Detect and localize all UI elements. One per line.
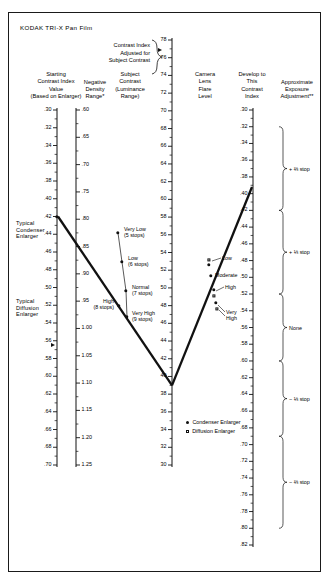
hdr-line: Adjustment** bbox=[281, 93, 314, 100]
develop-to-contrast-index-tick-label: .54 bbox=[240, 308, 248, 313]
typical-diffusion-enlarger-label: Typical Diffusion Enlarger bbox=[16, 298, 39, 318]
hdr-line: (Luminance bbox=[115, 86, 145, 93]
develop-to-contrast-index-tick-label: .46 bbox=[240, 241, 248, 246]
starting-contrast-index-tick-label: .68 bbox=[44, 445, 52, 450]
hdr-line: Value bbox=[31, 86, 82, 93]
negative-density-range-tick-label: .75 bbox=[82, 189, 90, 194]
negative-density-range-tick-label: 1.25 bbox=[82, 462, 93, 467]
starting-contrast-index-tick-label: .58 bbox=[44, 356, 52, 361]
hdr-line: Index bbox=[238, 93, 265, 100]
header-exposure-adjustment: Approximate Exposure Adjustment** bbox=[281, 79, 314, 101]
hdr-line: Range* bbox=[84, 93, 106, 100]
exposure-adjustment-label: − ⅓ stop bbox=[289, 396, 310, 402]
legend-label: Condenser Enlarger bbox=[192, 418, 240, 427]
side-label-line: Typical bbox=[16, 298, 39, 305]
legend: Condenser Enlarger Diffusion Enlarger bbox=[186, 418, 241, 436]
center-callout-line3: Subject Contrast bbox=[109, 57, 150, 64]
negative-density-range-tick-label: .65 bbox=[82, 135, 90, 140]
negative-density-range-tick-label: .70 bbox=[82, 162, 90, 167]
negative-density-range-tick-label: 1.00 bbox=[82, 326, 93, 331]
develop-to-contrast-index-tick-label: .50 bbox=[240, 275, 248, 280]
hdr-line: Negative bbox=[84, 79, 106, 86]
hdr-line: Lens bbox=[195, 78, 215, 85]
subject-contrast-label: Low(6 stops) bbox=[128, 255, 149, 267]
subject-contrast-label: Normal(7 stops) bbox=[132, 284, 153, 296]
starting-contrast-index-tick-label: .62 bbox=[44, 391, 52, 396]
legend-label: Diffusion Enlarger bbox=[192, 427, 235, 436]
nomograph-page: KODAK TRI-X Pan Film Contrast Index Adju… bbox=[0, 0, 330, 584]
negative-density-range-tick-label: 1.15 bbox=[82, 408, 93, 413]
contrast-index-adjusted-tick-label: 64 bbox=[161, 161, 167, 166]
contrast-index-adjusted-tick-label: 42 bbox=[161, 356, 167, 361]
flare-point-diffusion bbox=[212, 294, 215, 297]
starting-contrast-index-tick-label: .44 bbox=[44, 232, 52, 237]
exposure-adjustment-label: + ⅓ stop bbox=[289, 249, 310, 255]
develop-to-contrast-index-tick-label: .30 bbox=[240, 107, 248, 112]
page-title: KODAK TRI-X Pan Film bbox=[20, 24, 93, 31]
develop-to-contrast-index-tick-label: .48 bbox=[240, 258, 248, 263]
subject-contrast-label: Very Low(5 stops) bbox=[124, 226, 146, 238]
starting-contrast-index-tick-label: .38 bbox=[44, 178, 52, 183]
typical-condenser-enlarger-label: Typical Condenser Enlarger bbox=[16, 220, 45, 240]
starting-contrast-index-tick-label: .40 bbox=[44, 196, 52, 201]
contrast-index-adjusted-tick-label: 50 bbox=[161, 285, 167, 290]
contrast-index-adjusted-tick-label: 34 bbox=[161, 427, 167, 432]
side-label-line: Enlarger bbox=[16, 311, 39, 318]
header-starting-ci: Starting Contrast Index Value (Based on … bbox=[31, 71, 82, 101]
develop-to-contrast-index-tick-label: .32 bbox=[240, 124, 248, 129]
center-callout-arrow bbox=[158, 48, 162, 52]
hdr-line: This bbox=[238, 78, 265, 85]
develop-to-contrast-index-tick-label: .80 bbox=[240, 526, 248, 531]
starting-contrast-index-tick-label: .66 bbox=[44, 427, 52, 432]
subject-contrast-label-stops: (9 stops) bbox=[132, 316, 155, 322]
develop-to-contrast-index-tick-label: .60 bbox=[240, 358, 248, 363]
contrast-index-adjusted-tick-label: 76 bbox=[161, 55, 167, 60]
starting-contrast-index-tick-label: .60 bbox=[44, 374, 52, 379]
flare-label-moderate: Moderate bbox=[215, 272, 237, 278]
develop-to-contrast-index-tick-label: .42 bbox=[240, 208, 248, 213]
contrast-index-adjusted-tick-label: 70 bbox=[161, 108, 167, 113]
starting-contrast-index-tick-label: .52 bbox=[44, 303, 52, 308]
develop-to-contrast-index-tick-label: .68 bbox=[240, 425, 248, 430]
contrast-index-adjusted-tick-label: 72 bbox=[161, 90, 167, 95]
side-label-line: Typical bbox=[16, 220, 45, 227]
hdr-line: Flare bbox=[195, 86, 215, 93]
starting-contrast-index-tick-label: .32 bbox=[44, 125, 52, 130]
hdr-line: Camera bbox=[195, 71, 215, 78]
hdr-line: Range) bbox=[115, 93, 145, 100]
hdr-line: Approximate bbox=[281, 79, 314, 86]
develop-to-contrast-index-tick-label: .40 bbox=[240, 191, 248, 196]
hdr-line: (Based on Enlarger) bbox=[31, 93, 82, 100]
starting-contrast-index-tick-label: .50 bbox=[44, 285, 52, 290]
contrast-index-adjusted-tick-label: 40 bbox=[161, 374, 167, 379]
open-square-icon bbox=[186, 430, 189, 433]
subject-contrast-label-stops: (8 stops) bbox=[93, 304, 114, 310]
contrast-index-adjusted-tick-label: 66 bbox=[161, 144, 167, 149]
starting-contrast-index-tick-label: .34 bbox=[44, 143, 52, 148]
legend-item: Diffusion Enlarger bbox=[186, 427, 241, 436]
develop-to-contrast-index-tick-label: .36 bbox=[240, 157, 248, 162]
contrast-index-adjusted-tick-label: 62 bbox=[161, 179, 167, 184]
starting-contrast-index-tick-label: .64 bbox=[44, 409, 52, 414]
legend-item: Condenser Enlarger bbox=[186, 418, 241, 427]
negative-density-range-tick-label: 1.10 bbox=[82, 380, 93, 385]
filled-circle-icon bbox=[186, 421, 189, 424]
contrast-index-adjusted-tick-label: 78 bbox=[161, 37, 167, 42]
header-subject-contrast: Subject Contrast (Luminance Range) bbox=[115, 71, 145, 101]
hdr-line: Starting bbox=[31, 71, 82, 78]
starting-contrast-index-tick-label: .70 bbox=[44, 462, 52, 467]
develop-to-contrast-index-tick-label: .76 bbox=[240, 492, 248, 497]
contrast-index-adjusted-tick-label: 56 bbox=[161, 232, 167, 237]
contrast-index-adjusted-tick-label: 44 bbox=[161, 338, 167, 343]
header-flare-level: Camera Lens Flare Level bbox=[195, 71, 215, 101]
contrast-index-adjusted-tick-label: 38 bbox=[161, 391, 167, 396]
hdr-line: Contrast Index bbox=[31, 78, 82, 85]
header-negative-density: Negative Density Range* bbox=[84, 79, 106, 101]
starting-contrast-index-tick-label: .46 bbox=[44, 249, 52, 254]
negative-density-range-tick-label: .85 bbox=[82, 244, 90, 249]
flare-label-low: Low bbox=[222, 255, 232, 261]
negative-density-range-tick-label: .95 bbox=[82, 298, 90, 303]
contrast-index-adjusted-tick-label: 58 bbox=[161, 214, 167, 219]
contrast-index-adjusted-tick-label: 30 bbox=[161, 462, 167, 467]
subject-contrast-label: High(8 stops) bbox=[93, 298, 114, 310]
